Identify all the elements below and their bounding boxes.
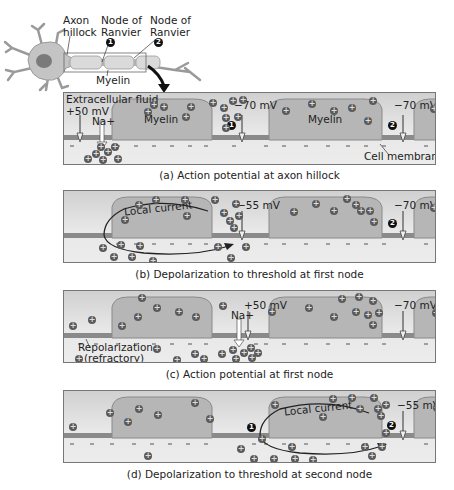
extracellular-fluid-label: Extracellular fluid — [66, 93, 158, 105]
positive-ion: + — [219, 302, 227, 310]
positive-ion: + — [230, 224, 238, 232]
positive-ion: + — [183, 212, 191, 220]
node2-badge: 2 — [154, 38, 163, 47]
positive-ion: + — [84, 155, 92, 163]
positive-ion: + — [187, 103, 195, 111]
positive-ion: + — [138, 294, 146, 302]
caption-a: (a) Action potential at axon hillock — [63, 169, 436, 181]
positive-ion: + — [366, 207, 374, 215]
positive-ion: + — [291, 455, 299, 463]
positive-ion: + — [222, 124, 230, 132]
positive-ion: + — [348, 394, 356, 402]
positive-ion: + — [432, 309, 436, 317]
positive-ion: + — [250, 455, 258, 463]
positive-ion: + — [128, 253, 136, 261]
positive-ion: + — [220, 104, 228, 112]
positive-ion: + — [191, 350, 199, 358]
positive-ion: + — [330, 107, 338, 115]
panel-c: +50 mV Na+ −70 mV Repolarization (refrac… — [63, 290, 436, 363]
positive-ion: + — [182, 113, 190, 121]
positive-ion: + — [348, 104, 356, 112]
node-of-ranvier-2-label: Node of Ranvier — [150, 14, 191, 38]
positive-ion: + — [232, 355, 240, 363]
node1-line1: Node of — [101, 14, 142, 26]
positive-ion: + — [369, 97, 377, 105]
positive-ion: + — [258, 435, 266, 443]
positive-ion: + — [254, 349, 262, 357]
positive-ion: + — [364, 117, 372, 125]
positive-ion: + — [160, 103, 168, 111]
positive-ion: + — [377, 412, 385, 420]
positive-ion: + — [99, 244, 107, 252]
positive-ion: + — [330, 207, 338, 215]
positive-ion: + — [191, 399, 199, 407]
positive-ion: + — [239, 96, 247, 104]
caption-d: (d) Depolarization to threshold at secon… — [63, 468, 436, 480]
positive-ion: + — [175, 308, 183, 316]
positive-ion: + — [370, 218, 378, 226]
node2-line2: Ranvier — [150, 26, 191, 38]
positive-ion: + — [234, 113, 242, 121]
positive-ion: + — [229, 346, 237, 354]
positive-ion: + — [136, 242, 144, 250]
positive-ion: + — [218, 350, 226, 358]
positive-ion: + — [110, 253, 118, 261]
positive-ion: + — [382, 429, 390, 437]
positive-ion: + — [135, 405, 143, 413]
positive-ion: + — [227, 254, 235, 262]
positive-ion: + — [361, 443, 369, 451]
node1-line2: Ranvier — [101, 26, 142, 38]
positive-ion: + — [153, 304, 161, 312]
positive-ion: + — [75, 355, 83, 363]
positive-ion: + — [222, 114, 230, 122]
positive-ion: + — [232, 200, 240, 208]
positive-ion: + — [99, 156, 107, 164]
positive-ion: + — [338, 295, 346, 303]
positive-ion: + — [378, 443, 386, 451]
na-label: Na+ — [92, 115, 115, 127]
positive-ion: + — [430, 204, 436, 212]
voltage-node2-label: −55 mV — [397, 399, 436, 411]
positive-ion: + — [152, 196, 160, 204]
positive-ion: + — [369, 321, 377, 329]
positive-ion: + — [308, 100, 316, 108]
positive-ion: + — [206, 415, 214, 423]
positive-ion: + — [305, 304, 313, 312]
positive-ion: + — [312, 200, 320, 208]
cell-membrane-label: Cell membrane — [364, 150, 436, 162]
positive-ion: + — [134, 313, 142, 321]
positive-ion: + — [144, 108, 152, 116]
positive-ion: + — [118, 322, 126, 330]
positive-ion: + — [370, 394, 378, 402]
caption-c: (c) Action potential at first node — [63, 368, 436, 380]
voltage-node2-label: −70 mV — [394, 299, 436, 311]
positive-ion: + — [150, 101, 158, 109]
positive-ion: + — [268, 308, 276, 316]
node-of-ranvier-1-label: Node of Ranvier — [101, 14, 142, 38]
positive-ion: + — [355, 293, 363, 301]
positive-ion: + — [121, 216, 129, 224]
myelin-label-2: Myelin — [308, 113, 342, 125]
panel-b: Local current −55 mV −70 mV 2 + + + + + … — [63, 190, 436, 263]
node1-badge: 1 — [247, 423, 256, 432]
positive-ion: + — [382, 401, 390, 409]
positive-ion: + — [181, 196, 189, 204]
positive-ion: + — [192, 313, 200, 321]
positive-ion: + — [117, 241, 125, 249]
neuron-illustration: Axon hillock Node of Ranvier Node of Ran… — [0, 0, 454, 92]
axon-hillock-line1: Axon — [63, 14, 97, 26]
positive-ion: + — [329, 395, 337, 403]
positive-ion: + — [430, 105, 436, 113]
positive-ion: + — [271, 401, 279, 409]
positive-ion: + — [209, 99, 217, 107]
positive-ion: + — [237, 445, 245, 453]
positive-ion: + — [290, 208, 298, 216]
positive-ion: + — [288, 443, 296, 451]
positive-ion: + — [352, 308, 360, 316]
axon-hillock-line2: hillock — [63, 26, 97, 38]
node1-badge: 1 — [106, 38, 115, 47]
positive-ion: + — [111, 143, 119, 151]
positive-ion: + — [369, 297, 377, 305]
positive-ion: + — [364, 311, 372, 319]
positive-ion: + — [124, 418, 132, 426]
